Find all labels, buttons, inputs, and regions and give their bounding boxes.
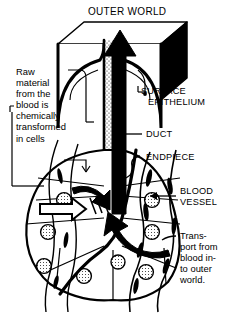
label-surface-epithelium-line2: EPITHELIUM	[148, 97, 205, 108]
page-title: OUTER WORLD	[88, 6, 166, 18]
figure-canvas: OUTER WORLD SURFACE EPITHELIUM DUCT ENDP…	[0, 0, 232, 313]
label-transport-note: Trans- port from blood in- to outer worl…	[180, 230, 218, 285]
label-duct: DUCT	[146, 129, 172, 140]
label-surface-epithelium-line1: SURFACE	[141, 86, 186, 97]
label-raw-material-note: Raw material from the blood is chemicall…	[16, 66, 66, 144]
label-endpiece: ENDPIECE	[146, 152, 195, 163]
label-blood-vessel-line1: BLOOD	[180, 186, 213, 197]
label-blood-vessel-line2: VESSEL	[180, 197, 217, 208]
